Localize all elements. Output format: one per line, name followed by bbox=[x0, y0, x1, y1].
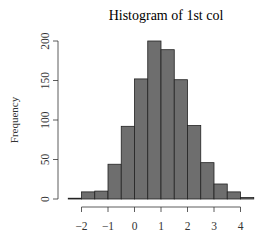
x-tick-label: 3 bbox=[211, 220, 217, 232]
x-tick-label: 4 bbox=[238, 220, 244, 232]
histogram-bar bbox=[68, 198, 81, 199]
x-tick-label: 2 bbox=[185, 220, 191, 232]
x-tick-label: 1 bbox=[158, 220, 164, 232]
histogram-bars bbox=[68, 41, 254, 199]
histogram-bar bbox=[108, 164, 121, 199]
histogram-bar bbox=[121, 126, 134, 199]
y-tick-label: 200 bbox=[39, 32, 51, 50]
histogram-bar bbox=[82, 192, 95, 199]
histogram-bar bbox=[201, 163, 214, 199]
histogram-bar bbox=[135, 79, 148, 199]
histogram-chart: Histogram of 1st col Frequency 050100150… bbox=[0, 0, 276, 249]
histogram-bar bbox=[188, 126, 201, 199]
y-axis: 050100150200 bbox=[39, 32, 58, 202]
y-tick-label: 150 bbox=[39, 72, 51, 90]
y-axis-label: Frequency bbox=[8, 96, 20, 143]
x-tick-label: 0 bbox=[132, 220, 138, 232]
histogram-bar bbox=[95, 191, 108, 199]
histogram-bar bbox=[148, 41, 161, 199]
y-tick-label: 100 bbox=[39, 111, 51, 129]
x-tick-label: −2 bbox=[75, 220, 87, 232]
histogram-bar bbox=[174, 80, 187, 199]
histogram-bar bbox=[241, 197, 254, 199]
histogram-bar bbox=[214, 184, 227, 199]
y-tick-label: 0 bbox=[39, 196, 51, 202]
histogram-bar bbox=[227, 192, 240, 199]
histogram-bar bbox=[161, 50, 174, 199]
chart-title: Histogram of 1st col bbox=[109, 8, 224, 23]
y-tick-label: 50 bbox=[39, 154, 51, 166]
x-axis: −2−101234 bbox=[75, 207, 243, 232]
x-tick-label: −1 bbox=[102, 220, 114, 232]
